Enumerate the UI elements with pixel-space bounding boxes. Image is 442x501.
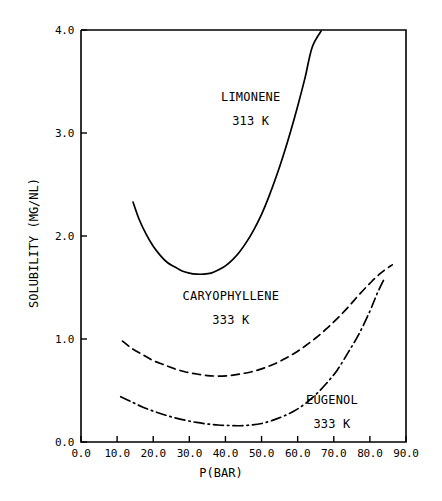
curve-limonene [133, 31, 321, 274]
x-tick-label: 30.0 [177, 447, 202, 460]
annotation-series-name: EUGENOL [306, 393, 358, 407]
y-tick-label: 3.0 [42, 127, 74, 140]
x-tick-label: 40.0 [213, 447, 238, 460]
y-tick-label: 2.0 [42, 230, 74, 243]
y-tick-label: 1.0 [42, 333, 74, 346]
y-axis-ticks [81, 30, 87, 442]
x-tick-label: 70.0 [321, 447, 346, 460]
x-tick-label: 10.0 [104, 447, 129, 460]
annotation-limonene: LIMONENE313 K [221, 90, 280, 128]
x-tick-label: 90.0 [393, 447, 418, 460]
annotation-temperature: 333 K [306, 417, 358, 431]
annotation-temperature: 333 K [183, 313, 280, 327]
annotation-caryophyllene: CARYOPHYLLENE333 K [183, 289, 280, 327]
y-tick-label: 4.0 [42, 24, 74, 37]
plot-canvas [0, 0, 442, 501]
x-tick-label: 80.0 [357, 447, 382, 460]
x-tick-label: 60.0 [285, 447, 310, 460]
solubility-chart-figure: 0.010.020.030.040.050.060.070.080.090.0 … [0, 0, 442, 501]
y-axis-title: SOLUBILITY (MG/NL) [27, 133, 41, 353]
annotation-series-name: CARYOPHYLLENE [183, 289, 280, 303]
x-tick-label: 50.0 [249, 447, 274, 460]
annotation-temperature: 313 K [221, 114, 280, 128]
x-axis-title: P(BAR) [0, 466, 442, 480]
x-tick-label: 20.0 [141, 447, 166, 460]
x-axis-ticks [81, 436, 406, 442]
annotation-series-name: LIMONENE [221, 90, 280, 104]
x-tick-label: 0.0 [72, 447, 91, 460]
y-tick-label: 0.0 [42, 436, 74, 449]
annotation-eugenol: EUGENOL333 K [306, 393, 358, 431]
